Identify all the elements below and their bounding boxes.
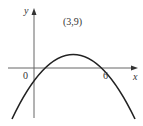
- x-axis-label: x: [132, 71, 138, 82]
- origin-label: 0: [23, 70, 28, 81]
- y-axis-label: y: [23, 5, 29, 16]
- parabola-diagram: y x 0 6 (3,9): [0, 0, 143, 126]
- vertex-label: (3,9): [63, 16, 82, 28]
- x-axis-arrow-icon: [131, 66, 138, 71]
- y-axis-arrow-icon: [32, 8, 37, 15]
- parabola-curve: [12, 55, 135, 120]
- root-label: 6: [103, 70, 108, 81]
